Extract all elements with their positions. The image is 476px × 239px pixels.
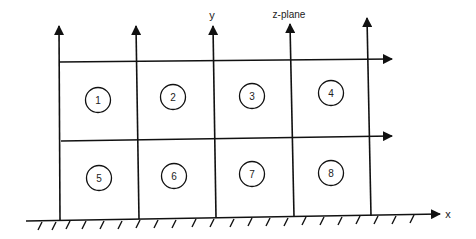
vertical-arrows <box>59 18 371 221</box>
y-axis-label: y <box>209 9 215 21</box>
cell-label-1: 1 <box>95 95 101 106</box>
cell-label-7: 7 <box>249 169 255 180</box>
cell-label-3: 3 <box>249 91 255 102</box>
cell-label-4: 4 <box>328 88 334 99</box>
cell-label-6: 6 <box>171 171 177 182</box>
cell-label-8: 8 <box>328 168 334 179</box>
cell-label-5: 5 <box>96 173 102 184</box>
z-plane-diagram: 1 2 3 4 5 6 7 8 y z-plane x <box>0 0 476 239</box>
horizontal-arrows <box>26 59 440 221</box>
cell-label-2: 2 <box>170 92 176 103</box>
x-axis-label: x <box>445 208 451 220</box>
plane-label: z-plane <box>273 9 306 20</box>
